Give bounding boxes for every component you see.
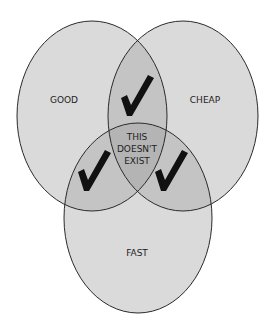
- center-line-3: EXIST: [124, 156, 150, 166]
- venn-diagram: GOOD CHEAP FAST THIS DOESN'T EXIST: [0, 0, 273, 330]
- center-line-2: DOESN'T: [117, 144, 158, 154]
- label-cheap: CHEAP: [190, 95, 221, 105]
- center-line-1: THIS: [126, 132, 148, 142]
- label-fast: FAST: [126, 248, 148, 258]
- label-good: GOOD: [50, 95, 78, 105]
